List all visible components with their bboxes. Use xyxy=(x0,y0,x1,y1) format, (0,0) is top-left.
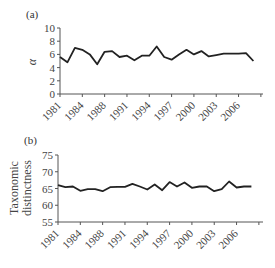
x-tick-label: 2006 xyxy=(216,227,240,251)
panel-label: (a) xyxy=(26,8,39,21)
y-axis-label: α xyxy=(25,58,39,65)
y-tick-label: 70 xyxy=(42,166,54,178)
chart-panel-a: (a)0246810198119841988199119941997200020… xyxy=(0,0,275,134)
x-tick-label: 1984 xyxy=(60,227,84,251)
y-tick-label: 2 xyxy=(50,75,56,87)
y-tick-label: 8 xyxy=(50,35,56,47)
y-tick-label: 75 xyxy=(42,149,54,161)
y-tick-label: 10 xyxy=(44,22,56,34)
x-tick-label: 1991 xyxy=(106,99,130,123)
y-tick-label: 55 xyxy=(42,216,54,228)
x-tick-label: 1997 xyxy=(151,99,175,123)
x-tick-label: 1988 xyxy=(82,227,106,251)
chart-panel-b: (b)5560657075198119841988199119941997200… xyxy=(0,134,275,268)
x-tick-label: 1991 xyxy=(104,227,128,251)
x-tick-label: 2000 xyxy=(173,99,197,123)
y-tick-label: 60 xyxy=(42,199,54,211)
x-tick-label: 1988 xyxy=(84,99,108,123)
x-tick-label: 2003 xyxy=(194,227,218,251)
y-axis-label-line1: Taxonomic xyxy=(7,161,21,215)
data-line-taxonomic_distinctness xyxy=(58,182,251,192)
y-tick-label: 65 xyxy=(42,183,54,195)
y-tick-label: 4 xyxy=(50,62,56,74)
alpha-chart: (a)0246810198119841988199119941997200020… xyxy=(0,0,275,134)
y-tick-label: 0 xyxy=(50,88,56,100)
y-axis-label-line2: distinctness xyxy=(20,160,34,216)
taxonomic-distinctness-chart: (b)5560657075198119841988199119941997200… xyxy=(0,134,275,268)
x-tick-label: 1997 xyxy=(149,227,173,251)
x-tick-label: 1984 xyxy=(62,99,86,123)
x-tick-label: 2003 xyxy=(196,99,220,123)
data-line-alpha xyxy=(60,47,253,65)
x-tick-label: 2006 xyxy=(218,99,242,123)
x-tick-label: 2000 xyxy=(171,227,195,251)
panel-label: (b) xyxy=(24,134,37,147)
x-tick-label: 1981 xyxy=(37,227,61,251)
x-tick-label: 1994 xyxy=(129,99,153,123)
y-tick-label: 6 xyxy=(50,48,56,60)
x-tick-label: 1994 xyxy=(127,227,151,251)
x-tick-label: 1981 xyxy=(39,99,63,123)
